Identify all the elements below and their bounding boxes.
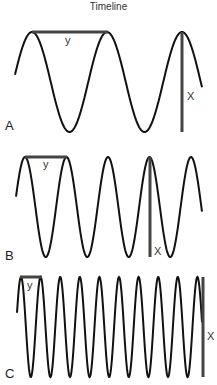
amplitude-label-c: X bbox=[207, 330, 214, 342]
amplitude-label-a: X bbox=[187, 90, 194, 102]
wave-panel-c bbox=[17, 277, 203, 377]
wavelength-label-a: y bbox=[65, 34, 71, 46]
amplitude-label-b: X bbox=[154, 245, 161, 257]
wave-panel-a bbox=[15, 32, 202, 132]
panel-letter-a: A bbox=[5, 118, 14, 133]
sine-waves-figure bbox=[0, 0, 217, 385]
sine-wave bbox=[16, 157, 202, 257]
wave-panel-b bbox=[16, 157, 202, 257]
panel-letter-b: B bbox=[5, 248, 14, 263]
sine-wave bbox=[15, 32, 202, 132]
wavelength-label-c: y bbox=[27, 279, 33, 291]
panel-letter-c: C bbox=[5, 366, 14, 381]
sine-wave bbox=[17, 277, 202, 377]
wavelength-label-b: y bbox=[43, 158, 49, 170]
